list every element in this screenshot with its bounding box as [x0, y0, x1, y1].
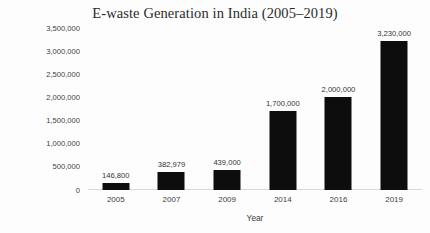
chart-figure: E-waste Generation in India (2005–2019) …	[0, 0, 430, 233]
y-axis-tick-label: 500,000	[18, 162, 80, 171]
y-axis-tick-label: 1,000,000	[18, 139, 80, 148]
bar-value-label: 382,979	[158, 160, 185, 169]
bar-2009[interactable]	[214, 170, 241, 190]
bar-slot: 1,700,000	[255, 28, 311, 190]
bar-slot: 146,800	[88, 28, 144, 190]
bar-slot: 3,230,000	[366, 28, 422, 190]
x-axis-tick-label-2007: 2007	[144, 195, 200, 204]
bar-slot: 382,979	[144, 28, 200, 190]
x-axis-tick-label-2019: 2019	[366, 195, 422, 204]
y-axis-tick-label: 0	[18, 186, 80, 195]
y-axis-tick-label: 1,500,000	[18, 116, 80, 125]
bar-slot: 2,000,000	[311, 28, 367, 190]
chart-title: E-waste Generation in India (2005–2019)	[0, 5, 430, 22]
bar-2016[interactable]	[325, 97, 352, 190]
bar-value-label: 439,000	[213, 158, 240, 167]
x-axis-tick-label-2009: 2009	[199, 195, 255, 204]
x-axis-tick-label-2016: 2016	[311, 195, 367, 204]
x-axis-tick-labels: 200520072009201420162019	[88, 195, 422, 209]
bar-2005[interactable]	[102, 183, 129, 190]
plot-area: 146,800382,979439,0001,700,0002,000,0003…	[88, 28, 422, 190]
x-axis-title: Year	[88, 213, 422, 223]
bar-2019[interactable]	[381, 41, 408, 191]
x-axis-tick-label-2014: 2014	[255, 195, 311, 204]
y-axis-tick-label: 3,000,000	[18, 47, 80, 56]
y-axis-tick-label: 2,000,000	[18, 93, 80, 102]
y-axis-tick-label: 2,500,000	[18, 70, 80, 79]
y-axis-tick-label: 3,500,000	[18, 24, 80, 33]
bar-2007[interactable]	[158, 172, 185, 190]
bar-value-label: 146,800	[102, 171, 129, 180]
bar-2014[interactable]	[269, 111, 296, 190]
bar-value-label: 3,230,000	[377, 29, 411, 38]
bar-value-label: 1,700,000	[266, 99, 300, 108]
bar-value-label: 2,000,000	[322, 85, 356, 94]
bar-slot: 439,000	[199, 28, 255, 190]
y-axis-tick-labels: 0500,0001,000,0001,500,0002,000,0002,500…	[18, 24, 80, 196]
x-axis-tick-label-2005: 2005	[88, 195, 144, 204]
